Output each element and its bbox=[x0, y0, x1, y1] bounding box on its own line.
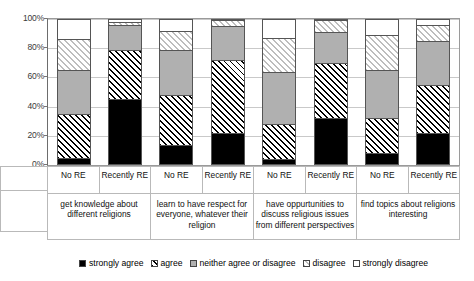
stub-row-subcat bbox=[1, 167, 49, 191]
bar-segment-strongly-disagree bbox=[262, 19, 296, 38]
y-axis-tick-mark bbox=[44, 47, 47, 48]
subcategory-label-8: Recently RE bbox=[408, 167, 460, 194]
bar-segment-agree bbox=[314, 63, 348, 118]
group-label-3: have oppurtunities to discuss religious … bbox=[254, 194, 357, 240]
bar-segment-strongly-agree bbox=[159, 145, 193, 165]
legend-swatch-icon bbox=[303, 260, 310, 267]
chart-legend: strongly agreeagreeneither agree or disa… bbox=[47, 258, 460, 268]
y-axis-tick-label: 100% bbox=[0, 13, 44, 23]
stub-cell bbox=[1, 167, 49, 191]
legend-label: strongly agree bbox=[89, 258, 143, 268]
y-axis-tick-mark bbox=[44, 106, 47, 107]
legend-item-neither-agree-or-disagree: neither agree or disagree bbox=[190, 258, 296, 268]
legend-label: agree bbox=[161, 258, 183, 268]
stub-row-group bbox=[1, 191, 49, 232]
subcategory-label-4: Recently RE bbox=[202, 167, 254, 194]
y-axis-tick-label: 80% bbox=[0, 42, 44, 52]
legend-swatch-icon bbox=[353, 260, 360, 267]
legend-swatch-icon bbox=[79, 260, 86, 267]
legend-item-strongly-agree: strongly agree bbox=[79, 258, 143, 268]
legend-label: neither agree or disagree bbox=[200, 258, 296, 268]
bar-segment-neither-agree-or-disagree bbox=[314, 32, 348, 63]
bar-1 bbox=[57, 19, 91, 165]
legend-item-disagree: disagree bbox=[303, 258, 346, 268]
legend-item-strongly-disagree: strongly disagree bbox=[353, 258, 428, 268]
legend-swatch-icon bbox=[190, 260, 197, 267]
bar-segment-strongly-agree bbox=[262, 159, 296, 165]
bar-segment-agree bbox=[211, 60, 245, 133]
bar-segment-neither-agree-or-disagree bbox=[365, 70, 399, 118]
bar-segment-strongly-agree bbox=[108, 99, 142, 165]
subcategory-label-6: Recently RE bbox=[305, 167, 357, 194]
bar-segment-neither-agree-or-disagree bbox=[57, 70, 91, 114]
bar-segment-strongly-agree bbox=[314, 118, 348, 165]
bar-segment-disagree bbox=[57, 39, 91, 70]
bar-3 bbox=[159, 19, 193, 165]
bar-segment-strongly-disagree bbox=[57, 19, 91, 39]
bar-segment-neither-agree-or-disagree bbox=[159, 50, 193, 95]
y-axis-tick-mark bbox=[44, 135, 47, 136]
bar-segment-strongly-disagree bbox=[365, 19, 399, 35]
bar-segment-disagree bbox=[314, 20, 348, 32]
legend-label: disagree bbox=[313, 258, 346, 268]
bar-segment-agree bbox=[108, 50, 142, 100]
bar-2 bbox=[108, 19, 142, 165]
y-axis-tick-mark bbox=[44, 164, 47, 165]
bar-segment-strongly-agree bbox=[211, 133, 245, 165]
bar-segment-agree bbox=[159, 95, 193, 145]
y-axis-tick-mark bbox=[44, 18, 47, 19]
group-label-4: find topics about religions interesting bbox=[357, 194, 460, 240]
subcategory-label-3: No RE bbox=[151, 167, 203, 194]
subcategory-label-7: No RE bbox=[357, 167, 409, 194]
plot-area bbox=[47, 18, 460, 166]
bar-segment-disagree bbox=[416, 25, 450, 41]
bar-segment-agree bbox=[365, 118, 399, 153]
group-row: get knowledge about different religionsl… bbox=[48, 194, 460, 240]
bar-segment-neither-agree-or-disagree bbox=[416, 41, 450, 85]
label-table-stub bbox=[0, 166, 48, 232]
bar-segment-neither-agree-or-disagree bbox=[108, 25, 142, 50]
bar-segment-agree bbox=[57, 114, 91, 158]
bar-6 bbox=[314, 19, 348, 165]
bar-segment-strongly-agree bbox=[416, 133, 450, 165]
bar-segment-strongly-disagree bbox=[159, 19, 193, 31]
stub-cell bbox=[1, 191, 49, 232]
subcategory-label-2: Recently RE bbox=[99, 167, 151, 194]
bar-segment-disagree bbox=[262, 38, 296, 72]
stacked-bar-chart: 0%20%40%60%80%100% No RERecently RENo RE… bbox=[0, 0, 474, 281]
subcategory-label-1: No RE bbox=[48, 167, 100, 194]
bar-5 bbox=[262, 19, 296, 165]
subcategory-label-5: No RE bbox=[254, 167, 306, 194]
bar-segment-agree bbox=[416, 85, 450, 133]
group-label-2: learn to have respect for everyone, what… bbox=[151, 194, 254, 240]
y-axis-tick-mark bbox=[44, 76, 47, 77]
bar-segment-strongly-agree bbox=[57, 158, 91, 165]
bar-segment-neither-agree-or-disagree bbox=[211, 26, 245, 60]
category-label-table: No RERecently RENo RERecently RENo RERec… bbox=[47, 166, 460, 240]
legend-swatch-icon bbox=[151, 260, 158, 267]
bar-7 bbox=[365, 19, 399, 165]
bar-4 bbox=[211, 19, 245, 165]
y-axis-tick-label: 40% bbox=[0, 101, 44, 111]
bar-segment-disagree bbox=[159, 31, 193, 50]
bar-segment-neither-agree-or-disagree bbox=[262, 72, 296, 125]
bars-layer bbox=[48, 19, 459, 165]
bar-8 bbox=[416, 19, 450, 165]
group-label-1: get knowledge about different religions bbox=[48, 194, 151, 240]
y-axis-tick-label: 60% bbox=[0, 71, 44, 81]
legend-item-agree: agree bbox=[151, 258, 183, 268]
y-axis-tick-label: 20% bbox=[0, 130, 44, 140]
bar-segment-disagree bbox=[365, 35, 399, 70]
subcategory-row: No RERecently RENo RERecently RENo RERec… bbox=[48, 167, 460, 194]
legend-label: strongly disagree bbox=[363, 258, 428, 268]
bar-segment-strongly-agree bbox=[365, 153, 399, 165]
bar-segment-agree bbox=[262, 124, 296, 159]
